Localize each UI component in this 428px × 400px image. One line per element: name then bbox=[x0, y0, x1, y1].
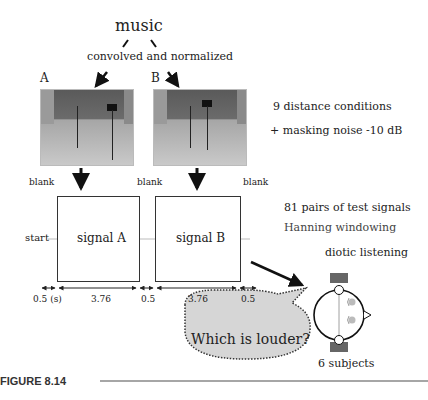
photo-condition-b bbox=[153, 89, 247, 166]
music-label: music bbox=[115, 16, 163, 35]
signal-a-label: signal A bbox=[77, 231, 126, 245]
pairs-note: 81 pairs of test signals bbox=[284, 201, 411, 214]
blank-label-1: blank bbox=[29, 177, 54, 187]
windowing-note: Hanning windowing bbox=[284, 221, 396, 234]
duration-signal-a: 3.76 bbox=[91, 294, 111, 304]
photo-label-b: B bbox=[151, 71, 160, 85]
photo-condition-a bbox=[40, 89, 134, 166]
question-bubble-text: Which is louder? bbox=[191, 331, 310, 347]
duration-blank-3: 0.5 bbox=[241, 294, 255, 304]
photo-label-a: A bbox=[40, 71, 49, 85]
start-label: start bbox=[25, 232, 49, 243]
duration-signal-b: 3.76 bbox=[188, 294, 208, 304]
signal-b-label: signal B bbox=[176, 231, 225, 245]
distance-conditions-note: 9 distance conditions bbox=[273, 100, 392, 113]
duration-blank-1: 0.5 (s) bbox=[33, 294, 62, 304]
masking-noise-note: + masking noise -10 dB bbox=[270, 124, 402, 137]
blank-label-2: blank bbox=[137, 177, 162, 187]
diotic-listening-label: diotic listening bbox=[325, 246, 408, 259]
subjects-label: 6 subjects bbox=[318, 357, 374, 370]
figure-caption: FIGURE 8.14 bbox=[0, 375, 66, 387]
duration-blank-2: 0.5 bbox=[141, 294, 155, 304]
blank-label-3: blank bbox=[243, 177, 268, 187]
process-label: convolved and normalized bbox=[87, 50, 233, 63]
